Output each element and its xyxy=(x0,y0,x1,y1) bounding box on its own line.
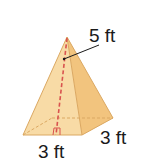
pyramid-drawing xyxy=(0,0,152,165)
slant-height-label: 5 ft xyxy=(89,26,115,45)
base-side-label: 3 ft xyxy=(100,128,126,147)
leader-dot xyxy=(63,58,65,60)
pyramid-diagram: 5 ft 3 ft 3 ft xyxy=(0,0,152,165)
base-front-label: 3 ft xyxy=(38,142,64,161)
